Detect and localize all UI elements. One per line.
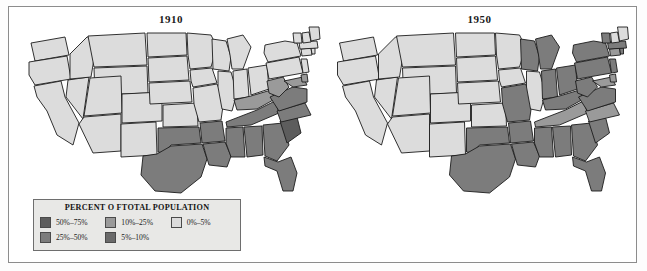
legend-swatch-50-75 <box>40 217 51 228</box>
state-VT <box>293 33 302 43</box>
legend-label-50-75: 50%–75% <box>56 218 88 227</box>
state-OH <box>248 65 269 95</box>
legend-swatch-10-25 <box>105 217 116 228</box>
legend-item-50-75: 50%–75% <box>40 215 103 230</box>
map-year-label-1950: 1950 <box>327 13 632 25</box>
state-DE <box>301 74 308 82</box>
state-NE <box>458 81 501 104</box>
state-VT <box>602 33 611 43</box>
legend-entries: 50%–75% 10%–25% 0%–5% 25%–50% 5%–10% <box>34 215 240 245</box>
state-NE <box>149 81 192 104</box>
legend-swatch-0-5 <box>171 217 182 228</box>
legend-item-10-25: 10%–25% <box>105 215 168 230</box>
state-IA <box>190 68 217 87</box>
state-IN <box>542 69 558 99</box>
legend-label-25-50: 25%–50% <box>56 233 88 242</box>
state-AR <box>509 121 534 143</box>
us-map-svg-1910 <box>15 25 327 197</box>
us-map-1950 <box>327 25 632 197</box>
legend-item-0-5: 0%–5% <box>171 215 234 230</box>
state-AZ <box>388 114 430 153</box>
state-RI <box>620 48 624 54</box>
state-SD <box>457 56 498 82</box>
state-MI <box>536 35 560 69</box>
map-legend: PERCENT O FTOTAL POPULATION 50%–75% 10%–… <box>33 199 241 251</box>
state-IA <box>499 68 526 87</box>
state-FL <box>264 157 297 191</box>
legend-label-10-25: 10%–25% <box>121 218 153 227</box>
state-KS <box>472 103 507 127</box>
map-states-1910 <box>29 27 320 193</box>
state-MT <box>88 33 147 67</box>
state-ND <box>456 33 496 57</box>
state-AZ <box>79 114 121 153</box>
map-year-label-1910: 1910 <box>15 13 327 25</box>
state-ND <box>147 33 187 57</box>
state-MT <box>397 33 456 67</box>
state-ME <box>309 27 320 41</box>
legend-label-5-10: 5%–10% <box>121 233 149 242</box>
state-NM <box>121 122 157 157</box>
state-FL <box>573 157 606 191</box>
legend-item-25-50: 25%–50% <box>40 230 103 245</box>
state-RI <box>311 48 315 54</box>
state-OH <box>557 65 578 95</box>
state-AL <box>244 126 263 157</box>
map-states-1950 <box>338 27 629 193</box>
figure-frame: 1910 <box>8 6 637 263</box>
state-AR <box>200 121 225 143</box>
state-DE <box>610 74 617 82</box>
state-MI <box>227 35 251 69</box>
state-AL <box>553 126 572 157</box>
state-ME <box>618 27 629 41</box>
us-map-svg-1950 <box>327 25 632 197</box>
state-SD <box>148 56 189 82</box>
legend-label-0-5: 0%–5% <box>187 218 211 227</box>
state-NM <box>430 122 466 157</box>
legend-swatch-5-10 <box>105 232 116 243</box>
state-UT <box>393 76 431 116</box>
us-map-1910 <box>15 25 327 197</box>
state-KS <box>163 103 198 127</box>
legend-item-5-10: 5%–10% <box>105 230 168 245</box>
state-UT <box>84 76 122 116</box>
map-panel-1950: 1950 <box>327 7 632 262</box>
legend-swatch-25-50 <box>40 232 51 243</box>
legend-spacer <box>171 230 234 245</box>
state-IN <box>233 69 249 99</box>
legend-title: PERCENT O FTOTAL POPULATION <box>34 203 240 212</box>
